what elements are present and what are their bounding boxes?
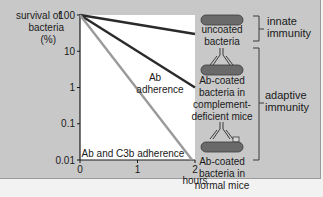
ab-c3b-coated-bacterium-icon (201, 142, 243, 152)
x-tick-label: 2 (192, 164, 198, 175)
antibody-icon (210, 48, 233, 65)
y-tick-label: 10 (64, 46, 76, 57)
antibody-icon (210, 122, 233, 139)
legend-item-label: uncoated (201, 24, 242, 35)
group-label-adaptive: immunity (265, 101, 310, 113)
bracket-innate (253, 16, 264, 41)
legend-item-label: normal mice (195, 180, 250, 191)
ab-coated-bacterium-icon (201, 65, 243, 75)
legend-item-label: complement- (193, 99, 251, 110)
y-axis-label: survival of (16, 10, 61, 21)
y-tick-label: 1 (69, 82, 75, 93)
group-label-innate: innate (267, 15, 297, 27)
legend-item-label: bacteria in (199, 87, 245, 98)
c3b-icon (233, 137, 239, 142)
chart: 1001010.10.01012hourssurvival ofbacteria… (0, 0, 323, 197)
legend-item-label: Ab-coated (199, 156, 245, 167)
y-tick-label: 0.1 (61, 118, 75, 129)
group-label-innate: immunity (267, 27, 312, 39)
y-tick-label: 0.01 (56, 155, 76, 166)
group-label-adaptive: adaptive (265, 89, 307, 101)
legend-item-label: Ab-coated (199, 75, 245, 86)
bracket-adaptive (253, 48, 264, 160)
legend-item-label: deficient mice (191, 111, 253, 122)
y-axis-label: bacteria (28, 22, 64, 33)
legend-item-label: bacteria in (199, 168, 245, 179)
annotation-ab-adherence: adherence (136, 84, 184, 95)
y-axis-label: (%) (40, 34, 56, 45)
annotation-ab-adherence: Ab (149, 72, 162, 83)
x-tick-label: 0 (77, 164, 83, 175)
annotation-ab-c3b-adherence: Ab and C3b adherence (82, 148, 185, 159)
legend-item-label: bacteria (204, 36, 240, 47)
x-tick-label: 1 (135, 164, 141, 175)
